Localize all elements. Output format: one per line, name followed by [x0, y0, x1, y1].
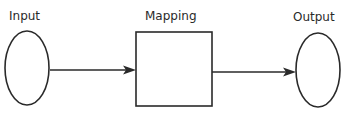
mapping-node-box — [136, 32, 212, 106]
output-label: Output — [293, 10, 335, 24]
edge-input-to-mapping — [50, 66, 136, 75]
input-label: Input — [9, 9, 40, 23]
input-node-ellipse — [5, 31, 49, 105]
mapping-label: Mapping — [145, 9, 197, 23]
output-node-ellipse — [296, 33, 340, 107]
edge-mapping-to-output — [212, 68, 296, 77]
input-mapping-output-diagram: Input Mapping Output — [0, 0, 349, 127]
